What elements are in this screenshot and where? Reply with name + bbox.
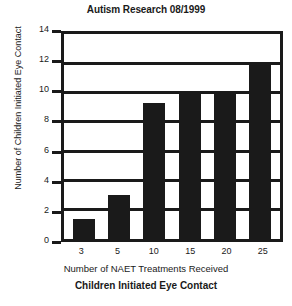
x-axis-title: Number of NAET Treatments Received [0, 263, 292, 274]
bar [214, 93, 236, 239]
y-tick-label: 14 [39, 24, 49, 34]
bar [73, 219, 95, 240]
y-tick-label: 0 [44, 235, 49, 245]
y-tick-label: 6 [44, 145, 49, 155]
y-tick-label: 12 [39, 54, 49, 64]
chart-title: Autism Research 08/1999 [0, 4, 292, 15]
y-tick-label: 2 [44, 205, 49, 215]
x-tick-label: 5 [106, 246, 128, 260]
bar [108, 195, 130, 239]
x-axis-tick-labels: 3510152025 [61, 246, 283, 260]
x-tick-label: 15 [179, 246, 201, 260]
y-tick-mark [52, 60, 61, 63]
bar-chart-figure: Autism Research 08/1999 Number of Childr… [0, 0, 292, 306]
y-tick-mark [52, 90, 61, 93]
x-tick-label: 3 [70, 246, 92, 260]
y-tick-label: 10 [39, 84, 49, 94]
y-tick-mark [52, 181, 61, 184]
y-tick-mark [52, 211, 61, 214]
y-axis: Number of Children Initiated Eye Contact… [0, 31, 61, 242]
bars-group [64, 34, 280, 239]
figure-caption: Children Initiated Eye Contact [0, 280, 292, 291]
bar [179, 93, 201, 239]
x-tick-label: 20 [215, 246, 237, 260]
y-tick-label: 4 [44, 175, 49, 185]
bar [143, 103, 165, 239]
y-tick-mark [52, 241, 61, 244]
y-tick-mark [52, 120, 61, 123]
x-tick-label: 25 [252, 246, 274, 260]
y-axis-title: Number of Children Initiated Eye Contact [13, 18, 23, 198]
y-tick-label: 8 [44, 114, 49, 124]
plot-area [61, 31, 283, 242]
y-tick-mark [52, 151, 61, 154]
x-tick-label: 10 [143, 246, 165, 260]
bar [249, 63, 271, 239]
y-tick-mark [52, 30, 61, 33]
